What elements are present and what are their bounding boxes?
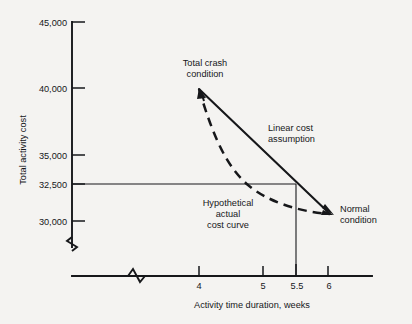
y-tick-label-30000: 30,000 bbox=[39, 217, 67, 227]
hypothetical-cost-curve-line1: Hypothetical bbox=[203, 198, 254, 208]
x-tick-label-6: 6 bbox=[326, 281, 331, 291]
y-axis-title: Total activity cost bbox=[18, 115, 28, 185]
normal-condition-line1: Normal bbox=[340, 204, 370, 214]
x-tick-label-5: 5 bbox=[260, 281, 265, 291]
time-cost-tradeoff-chart: 45,000 40,000 35,000 32,500 30,000 4 5 5… bbox=[0, 0, 412, 324]
y-tick-label-35000: 35,000 bbox=[39, 151, 67, 161]
annotation-linear-cost-assumption: Linear cost assumption bbox=[268, 123, 315, 144]
total-crash-condition-line1: Total crash bbox=[183, 58, 227, 68]
total-crash-condition-line2: condition bbox=[187, 69, 224, 79]
hypothetical-cost-curve-line2: actual bbox=[216, 209, 241, 219]
x-axis-title: Activity time duration, weeks bbox=[194, 300, 310, 310]
y-tick-label-45000: 45,000 bbox=[39, 18, 67, 28]
hypothetical-cost-curve-line3: cost curve bbox=[207, 220, 249, 230]
normal-condition-line2: condition bbox=[340, 215, 377, 225]
chart-figure: 45,000 40,000 35,000 32,500 30,000 4 5 5… bbox=[0, 0, 412, 324]
y-tick-label-40000: 40,000 bbox=[39, 84, 67, 94]
y-tick-label-32500: 32,500 bbox=[39, 180, 67, 190]
linear-cost-assumption-line2: assumption bbox=[268, 134, 315, 144]
linear-cost-assumption-line1: Linear cost bbox=[268, 123, 313, 133]
x-tick-label-4: 4 bbox=[196, 281, 201, 291]
x-tick-label-5-5: 5.5 bbox=[291, 281, 304, 291]
